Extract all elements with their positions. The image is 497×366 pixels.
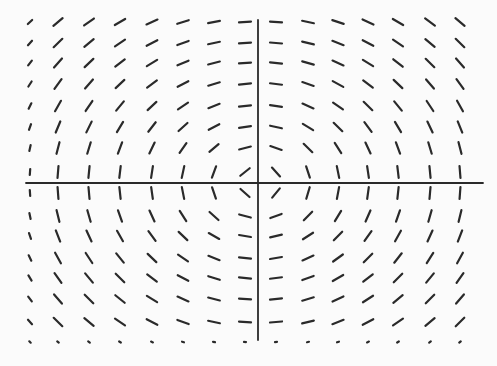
slope-segment bbox=[332, 20, 343, 24]
slope-segment bbox=[86, 122, 91, 133]
slope-segment bbox=[178, 275, 189, 281]
slope-segment bbox=[239, 257, 251, 258]
slope-segment bbox=[270, 105, 282, 107]
slope-segment bbox=[397, 341, 399, 342]
slope-segment bbox=[428, 142, 431, 153]
slope-segment bbox=[396, 210, 400, 221]
slope-segment bbox=[84, 19, 94, 26]
slope-segment bbox=[457, 253, 463, 264]
slope-segment bbox=[239, 63, 251, 64]
slope-segment bbox=[85, 273, 93, 282]
slope-segment bbox=[367, 166, 369, 178]
slope-segment bbox=[270, 277, 282, 279]
slope-segment bbox=[457, 101, 463, 111]
slope-segment bbox=[177, 320, 188, 324]
slope-segment bbox=[303, 104, 314, 109]
slope-segment bbox=[302, 276, 313, 280]
slope-segment bbox=[85, 79, 93, 88]
slope-segment bbox=[333, 275, 343, 281]
slope-segment bbox=[363, 40, 374, 46]
slope-segment bbox=[29, 213, 30, 219]
slope-segment bbox=[149, 143, 154, 154]
slope-segment bbox=[29, 341, 30, 342]
slope-segment bbox=[393, 319, 403, 326]
slope-segment bbox=[56, 230, 60, 241]
slope-segment bbox=[239, 126, 251, 128]
slope-segment bbox=[55, 273, 62, 283]
slope-segment bbox=[426, 273, 434, 282]
slope-segment bbox=[306, 187, 309, 199]
slope-segment bbox=[209, 144, 218, 152]
slope-segment bbox=[428, 231, 433, 242]
slope-segment bbox=[85, 59, 94, 67]
slope-segment bbox=[56, 142, 59, 154]
slope-segment bbox=[57, 210, 60, 222]
slope-segment bbox=[54, 39, 63, 47]
slope-segment bbox=[210, 212, 219, 220]
slope-segment bbox=[302, 321, 314, 324]
slope-segment bbox=[180, 143, 187, 153]
slope-segment bbox=[84, 318, 93, 326]
slope-segment bbox=[272, 168, 280, 177]
slope-segment bbox=[456, 79, 463, 89]
slope-segment bbox=[239, 43, 251, 44]
slope-segment bbox=[147, 40, 158, 45]
slope-segment bbox=[427, 122, 432, 133]
slope-segment bbox=[272, 188, 280, 197]
slope-segment bbox=[117, 231, 123, 241]
slope-segment bbox=[363, 319, 374, 325]
slope-segment bbox=[460, 166, 461, 178]
slope-segment bbox=[182, 342, 184, 343]
slope-segment bbox=[208, 42, 220, 44]
slope-field-canvas bbox=[0, 0, 497, 366]
slope-segment bbox=[303, 256, 314, 261]
slope-segment bbox=[455, 18, 464, 26]
slope-segment bbox=[456, 58, 464, 67]
slope-segment bbox=[29, 124, 31, 130]
slope-segment bbox=[29, 145, 30, 151]
slope-segment bbox=[119, 166, 120, 178]
slope-segment bbox=[429, 341, 431, 342]
slope-segment bbox=[303, 124, 313, 130]
slope-segment bbox=[209, 233, 219, 239]
slope-segment bbox=[149, 211, 154, 222]
slope-segment bbox=[270, 83, 282, 84]
slope-segment bbox=[147, 319, 158, 325]
slope-segment bbox=[306, 166, 310, 177]
slope-segment bbox=[57, 341, 59, 342]
slope-segment bbox=[425, 39, 434, 47]
slope-segment bbox=[29, 233, 31, 239]
slope-segment bbox=[456, 39, 465, 47]
slope-segment bbox=[337, 166, 339, 178]
slope-segment bbox=[304, 212, 312, 221]
slope-segment bbox=[151, 187, 153, 199]
slope-field-diagram bbox=[0, 0, 497, 366]
slope-segment bbox=[337, 342, 339, 343]
slope-segment bbox=[178, 81, 189, 86]
slope-segment bbox=[427, 101, 434, 111]
slope-segment bbox=[119, 341, 121, 342]
slope-segment bbox=[28, 275, 31, 280]
slope-segment bbox=[177, 41, 188, 45]
slope-segment bbox=[394, 80, 403, 88]
slope-segment bbox=[147, 20, 158, 25]
slope-segment bbox=[302, 82, 313, 86]
slope-segment bbox=[426, 295, 434, 304]
slope-segment bbox=[53, 18, 62, 26]
slope-segment bbox=[212, 187, 216, 198]
slope-segment bbox=[239, 83, 251, 84]
slope-segment bbox=[367, 187, 369, 199]
slope-segment bbox=[118, 142, 122, 153]
slope-segment bbox=[335, 211, 341, 221]
slope-segment bbox=[456, 318, 465, 326]
slope-segment bbox=[178, 103, 188, 110]
slope-segment bbox=[239, 147, 251, 150]
slope-segment bbox=[332, 41, 343, 45]
slope-segment bbox=[363, 274, 372, 281]
slope-segment bbox=[151, 166, 153, 178]
slope-segment bbox=[460, 187, 461, 199]
slope-segment bbox=[208, 298, 220, 301]
slope-segment bbox=[56, 121, 61, 132]
slope-segment bbox=[148, 102, 157, 110]
slope-segment bbox=[394, 253, 401, 262]
